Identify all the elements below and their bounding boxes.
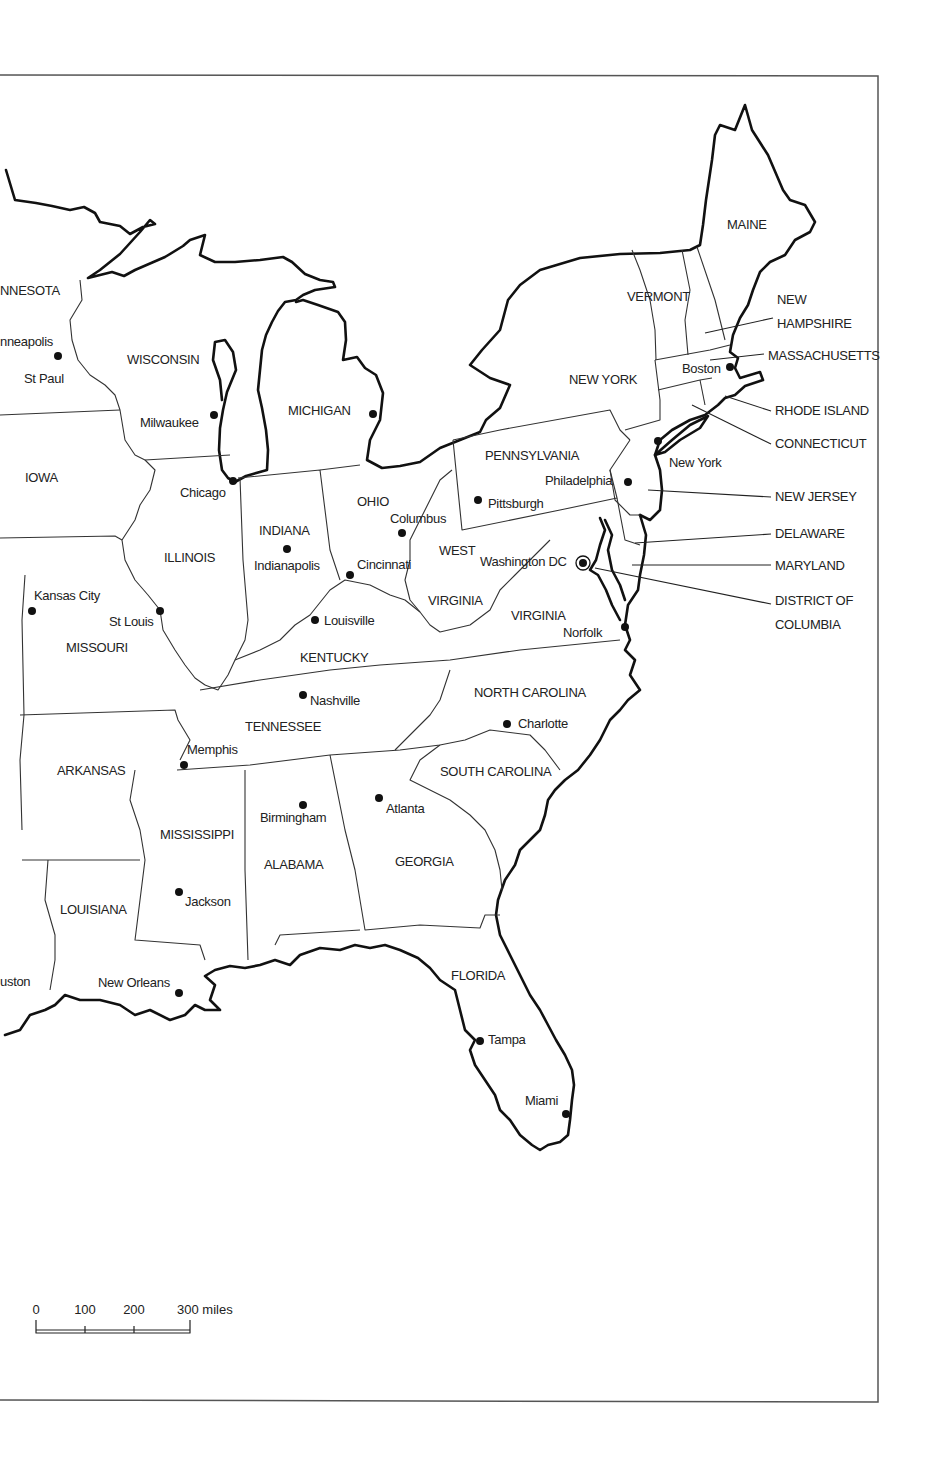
city-label-charlotte: Charlotte xyxy=(518,716,568,731)
state-label-north-carolina: NORTH CAROLINA xyxy=(474,685,586,700)
city-dot-icon xyxy=(346,571,354,579)
city-label-washington-dc: Washington DC xyxy=(480,554,567,569)
state-label-michigan: MICHIGAN xyxy=(288,403,351,418)
state-label-iowa: IOWA xyxy=(25,470,59,485)
map-frame xyxy=(0,75,878,1402)
city-label-cincinnati: Cincinnati xyxy=(357,557,411,572)
leader-line-rhode-island xyxy=(725,396,771,411)
city-label-tampa: Tampa xyxy=(488,1032,527,1047)
state-label-new-york: NEW YORK xyxy=(569,372,638,387)
state-label-maryland: MARYLAND xyxy=(775,558,845,573)
scale-tick-label: 100 xyxy=(74,1302,96,1317)
city-label-pittsburgh: Pittsburgh xyxy=(488,496,544,511)
city-dot-icon xyxy=(474,496,482,504)
city-dot-icon xyxy=(28,607,36,615)
scale-tick-label: 200 xyxy=(123,1302,145,1317)
city-label-louisville: Louisville xyxy=(324,613,375,628)
city-label-birmingham: Birmingham xyxy=(260,810,326,825)
eastern-us-map: NNESOTAWISCONSINMICHIGANIOWAILLINOISINDI… xyxy=(0,0,930,1473)
state-label-alabama: ALABAMA xyxy=(264,857,324,872)
state-label-ohio: OHIO xyxy=(357,494,389,509)
city-dot-icon xyxy=(54,352,62,360)
leader-line-new-jersey xyxy=(648,490,771,497)
state-label-illinois: ILLINOIS xyxy=(164,550,216,565)
state-label-connecticut: CONNECTICUT xyxy=(775,436,867,451)
city-dot-icon xyxy=(299,691,307,699)
city-dot-icon xyxy=(175,989,183,997)
city-label-new-orleans: New Orleans xyxy=(98,975,171,990)
city-dot-icon xyxy=(624,478,632,486)
state-label-wisconsin: WISCONSIN xyxy=(127,352,199,367)
city-dot-icon xyxy=(476,1037,484,1045)
city-dot-icon xyxy=(175,888,183,896)
city-label-houston: uston xyxy=(0,974,30,989)
city-label-new-york-city: New York xyxy=(669,455,722,470)
scale-bar: 0100200300 miles xyxy=(32,1302,233,1333)
city-dot-icon xyxy=(229,477,237,485)
state-label-arkansas: ARKANSAS xyxy=(57,763,126,778)
city-label-chicago: Chicago xyxy=(180,485,226,500)
state-label-missouri: MISSOURI xyxy=(66,640,128,655)
state-label-vermont: VERMONT xyxy=(627,289,690,304)
state-label-new-jersey: NEW JERSEY xyxy=(775,489,857,504)
city-label-columbus: Columbus xyxy=(390,511,447,526)
state-label-district-of-columbia: DISTRICT OF xyxy=(775,593,853,608)
state-label-massachusetts: MASSACHUSETTS xyxy=(768,348,880,363)
state-label-minnesota: NNESOTA xyxy=(0,283,60,298)
city-dot-icon xyxy=(503,720,511,728)
coastline-long-island xyxy=(655,416,708,455)
coastline-great-lakes xyxy=(6,170,335,482)
city-label-philadelphia: Philadelphia xyxy=(545,473,613,488)
city-label-nashville: Nashville xyxy=(310,693,360,708)
state-label-tennessee: TENNESSEE xyxy=(245,719,322,734)
state-label-virginia: VIRGINIA xyxy=(511,608,566,623)
city-label-boston: Boston xyxy=(682,361,721,376)
city-label-memphis: Memphis xyxy=(187,742,238,757)
state-label-florida: FLORIDA xyxy=(451,968,506,983)
city-label-indianapolis: Indianapolis xyxy=(254,558,321,573)
city-label-st-louis: St Louis xyxy=(109,614,154,629)
city-dot-icon xyxy=(180,761,188,769)
city-dot-icon xyxy=(398,529,406,537)
state-label-louisiana: LOUISIANA xyxy=(60,902,127,917)
city-dot-icon xyxy=(579,559,587,567)
coastline-chesapeake xyxy=(590,518,625,620)
state-label-delaware: DELAWARE xyxy=(775,526,845,541)
state-label-georgia: GEORGIA xyxy=(395,854,454,869)
city-dot-icon xyxy=(283,545,291,553)
city-label-milwaukee: Milwaukee xyxy=(140,415,199,430)
state-label-new-hampshire: NEW xyxy=(777,292,807,307)
city-label-miami: Miami xyxy=(525,1093,559,1108)
city-label-minneapolis: nneapolis xyxy=(0,334,54,349)
city-label-jackson: Jackson xyxy=(185,894,231,909)
state-label-west-virginia-2: VIRGINIA xyxy=(428,593,483,608)
city-dot-icon xyxy=(299,801,307,809)
callout-state-labels: NEWHAMPSHIREMASSACHUSETTSRHODE ISLANDCON… xyxy=(768,292,880,632)
scale-tick-label: 0 xyxy=(32,1302,39,1317)
state-labels: NNESOTAWISCONSINMICHIGANIOWAILLINOISINDI… xyxy=(0,217,767,983)
city-dot-icon xyxy=(156,607,164,615)
state-label-kentucky: KENTUCKY xyxy=(300,650,369,665)
state-label-west-virginia-1: WEST xyxy=(439,543,476,558)
state-label-district-of-columbia: COLUMBIA xyxy=(775,617,841,632)
city-label-norfolk: Norfolk xyxy=(563,625,603,640)
state-label-new-hampshire: HAMPSHIRE xyxy=(777,316,852,331)
state-label-mississippi: MISSISSIPPI xyxy=(160,827,234,842)
city-label-st-paul: St Paul xyxy=(24,371,64,386)
city-label-atlanta: Atlanta xyxy=(386,801,425,816)
city-dot-icon xyxy=(654,437,662,445)
state-label-south-carolina: SOUTH CAROLINA xyxy=(440,764,552,779)
city-dot-icon xyxy=(369,410,377,418)
city-dot-icon xyxy=(621,623,629,631)
city-label-kansas-city: Kansas City xyxy=(34,588,101,603)
scale-tick-label: 300 miles xyxy=(177,1302,233,1317)
state-label-rhode-island: RHODE ISLAND xyxy=(775,403,869,418)
city-dot-icon xyxy=(562,1110,570,1118)
state-label-pennsylvania: PENNSYLVANIA xyxy=(485,448,580,463)
city-dot-icon xyxy=(726,363,734,371)
state-label-indiana: INDIANA xyxy=(259,523,310,538)
city-dot-icon xyxy=(311,616,319,624)
leader-line-delaware xyxy=(635,534,771,543)
state-label-maine: MAINE xyxy=(727,217,767,232)
city-dot-icon xyxy=(375,794,383,802)
